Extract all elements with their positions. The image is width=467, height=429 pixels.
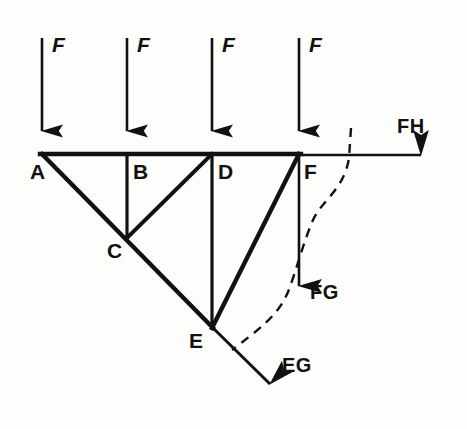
node-label-E: E: [189, 330, 203, 351]
section-cut-line: [232, 128, 351, 350]
node-label-C: C: [107, 240, 122, 261]
force-label-FG: FG: [310, 282, 339, 302]
load-label-F-at-F: F: [309, 34, 322, 55]
load-label-F-at-D: F: [222, 34, 235, 55]
diagram-canvas: [0, 0, 467, 429]
force-label-FH: FH: [397, 116, 425, 136]
node-label-A: A: [30, 161, 45, 182]
load-label-F-at-A: F: [52, 34, 65, 55]
node-label-D: D: [218, 161, 233, 182]
truss-diagram: F F F F A B C D E F FH FG EG: [0, 0, 467, 429]
node-label-F: F: [304, 161, 317, 182]
force-arrow-EG: [212, 327, 270, 384]
load-label-F-at-B: F: [137, 34, 150, 55]
force-label-EG: EG: [282, 355, 312, 375]
node-label-B: B: [133, 161, 148, 182]
